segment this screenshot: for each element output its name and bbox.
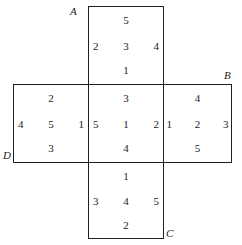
face-bottom-pip-center: 4 <box>119 196 133 207</box>
face-center-pip-left: 5 <box>89 119 103 130</box>
face-left-pip-top: 2 <box>44 93 58 104</box>
face-right-pip-bottom: 5 <box>191 143 205 154</box>
face-left-pip-bottom: 3 <box>44 143 58 154</box>
face-top-pip-bottom: 1 <box>119 65 133 76</box>
face-top-pip-top: 5 <box>119 15 133 26</box>
vertex-label-c: C <box>166 228 173 239</box>
face-center-pip-top: 3 <box>119 93 133 104</box>
vertex-label-b: B <box>224 70 231 81</box>
face-bottom-pip-top: 1 <box>119 171 133 182</box>
face-right-pip-center: 2 <box>191 119 205 130</box>
net-face-top: 5 2 3 4 1 <box>88 6 164 85</box>
face-top-pip-left: 2 <box>89 41 103 52</box>
vertex-label-d: D <box>3 150 11 161</box>
face-center-pip-right: 2 <box>149 119 163 130</box>
face-center-pip-bottom: 4 <box>119 143 133 154</box>
face-bottom-pip-left: 3 <box>89 196 103 207</box>
face-bottom-pip-bottom: 2 <box>119 220 133 231</box>
net-face-bottom: 1 3 4 5 2 <box>88 162 164 239</box>
net-face-right: 4 1 2 3 5 <box>163 84 232 163</box>
face-right-pip-right: 3 <box>219 119 233 130</box>
net-face-left: 2 4 5 1 3 <box>13 84 89 163</box>
face-right-pip-left: 1 <box>162 119 176 130</box>
cube-net-diagram: 5 2 3 4 1 2 4 5 1 3 3 5 1 2 4 4 1 2 3 5 … <box>0 0 242 245</box>
face-top-pip-center: 3 <box>119 41 133 52</box>
face-left-pip-center: 5 <box>44 119 58 130</box>
face-right-pip-top: 4 <box>191 93 205 104</box>
face-top-pip-right: 4 <box>149 41 163 52</box>
face-left-pip-right: 1 <box>74 119 88 130</box>
vertex-label-a: A <box>70 6 77 17</box>
face-center-pip-center: 1 <box>119 119 133 130</box>
face-bottom-pip-right: 5 <box>149 196 163 207</box>
face-left-pip-left: 4 <box>14 119 28 130</box>
net-face-center: 3 5 1 2 4 <box>88 84 164 163</box>
